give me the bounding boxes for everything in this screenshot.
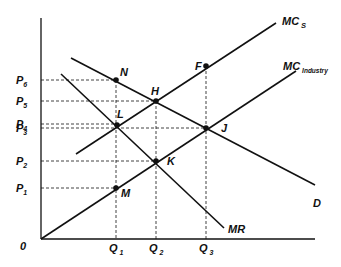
- point-label-n: N: [120, 66, 129, 78]
- curve-label-mr: MR: [228, 223, 245, 235]
- quantity-label-q2: Q2: [149, 242, 164, 256]
- point-f: [203, 63, 209, 69]
- curve-label-mcindustry: MCIndustry: [283, 60, 328, 75]
- point-label-k: K: [167, 155, 176, 167]
- curve-label-d: D: [313, 197, 321, 209]
- curve-label-mcs: MCS: [282, 15, 306, 30]
- quantity-label-q3: Q3: [199, 242, 214, 256]
- point-label-l: L: [117, 108, 124, 120]
- price-label-p1: P1: [16, 182, 27, 196]
- curves: [41, 23, 315, 239]
- dashed-guide-lines: [41, 66, 206, 239]
- point-j: [203, 125, 209, 131]
- point-n: [113, 77, 119, 83]
- economics-diagram: 0P6P5P4P3P2P1Q1Q2Q3MCSMCIndustryDMRNHLJK…: [0, 0, 341, 267]
- points: [113, 63, 209, 191]
- labels: 0P6P5P4P3P2P1Q1Q2Q3MCSMCIndustryDMRNHLJK…: [16, 15, 328, 256]
- quantity-label-q1: Q1: [109, 242, 124, 256]
- axes: [41, 18, 315, 239]
- point-label-h: H: [151, 85, 160, 97]
- price-label-p6: P6: [16, 74, 27, 88]
- point-h: [153, 98, 159, 104]
- point-l: [114, 122, 120, 128]
- point-label-m: M: [121, 187, 131, 199]
- point-label-f: F: [195, 60, 202, 72]
- price-label-p2: P2: [16, 155, 27, 169]
- curve-mr: [61, 74, 224, 228]
- point-m: [113, 185, 119, 191]
- point-label-j: J: [221, 122, 228, 134]
- price-label-p5: P5: [16, 95, 27, 109]
- curve-mcs: [76, 23, 276, 154]
- origin-label: 0: [20, 240, 27, 252]
- point-k: [153, 158, 159, 164]
